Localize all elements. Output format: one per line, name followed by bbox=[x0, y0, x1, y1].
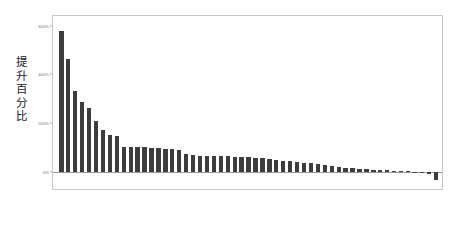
bar bbox=[156, 148, 160, 171]
bar bbox=[434, 172, 438, 180]
bar bbox=[309, 163, 313, 171]
bar bbox=[212, 156, 216, 172]
x-axis-ticks bbox=[52, 191, 443, 247]
y-axis-title: 提 升 百 分 比 bbox=[10, 56, 32, 124]
bar bbox=[205, 156, 209, 172]
plot-area: 0%200%400%600% bbox=[52, 15, 443, 190]
bar bbox=[337, 167, 341, 171]
bar bbox=[73, 91, 77, 171]
bar bbox=[87, 108, 91, 172]
bar bbox=[253, 158, 257, 172]
bar bbox=[94, 121, 98, 172]
bar bbox=[122, 147, 126, 172]
bar bbox=[364, 169, 368, 171]
bar bbox=[288, 161, 292, 171]
bar bbox=[59, 31, 63, 171]
bar bbox=[260, 158, 264, 171]
bar bbox=[115, 136, 119, 171]
bar bbox=[163, 149, 167, 172]
bar bbox=[323, 165, 327, 171]
bar bbox=[350, 168, 354, 171]
bar-series bbox=[53, 16, 442, 189]
bar bbox=[170, 149, 174, 171]
bar bbox=[406, 171, 410, 172]
bar bbox=[302, 163, 306, 172]
bar bbox=[101, 130, 105, 172]
bar bbox=[274, 160, 278, 171]
bar bbox=[399, 171, 403, 172]
bar bbox=[108, 135, 112, 172]
bar bbox=[177, 150, 181, 172]
bar bbox=[378, 170, 382, 171]
bar bbox=[371, 170, 375, 172]
bar bbox=[66, 59, 70, 171]
bar bbox=[316, 164, 320, 171]
bar bbox=[357, 169, 361, 172]
bar bbox=[392, 171, 396, 172]
bar bbox=[184, 154, 188, 172]
bar bbox=[149, 148, 153, 171]
y-tick-label: 200% bbox=[38, 120, 53, 125]
y-tick-label: 0% bbox=[43, 169, 53, 174]
bar bbox=[246, 157, 250, 171]
bar bbox=[142, 147, 146, 171]
bar-chart-figure: 提 升 百 分 比 0%200%400%600% bbox=[0, 0, 459, 248]
bar bbox=[226, 156, 230, 171]
bar bbox=[295, 162, 299, 172]
bar bbox=[420, 172, 424, 174]
bar bbox=[413, 172, 417, 173]
bar bbox=[343, 168, 347, 172]
bar bbox=[267, 159, 271, 172]
bar bbox=[233, 157, 237, 172]
bar bbox=[330, 166, 334, 171]
y-tick-label: 600% bbox=[38, 23, 53, 28]
bar bbox=[129, 147, 133, 172]
bar bbox=[281, 161, 285, 172]
bar bbox=[191, 155, 195, 172]
bar bbox=[80, 102, 84, 171]
bar bbox=[135, 147, 139, 171]
bar bbox=[239, 157, 243, 172]
bar bbox=[198, 156, 202, 172]
bar bbox=[385, 170, 389, 171]
bar bbox=[427, 172, 431, 175]
bar bbox=[219, 156, 223, 171]
y-tick-label: 400% bbox=[38, 72, 53, 77]
